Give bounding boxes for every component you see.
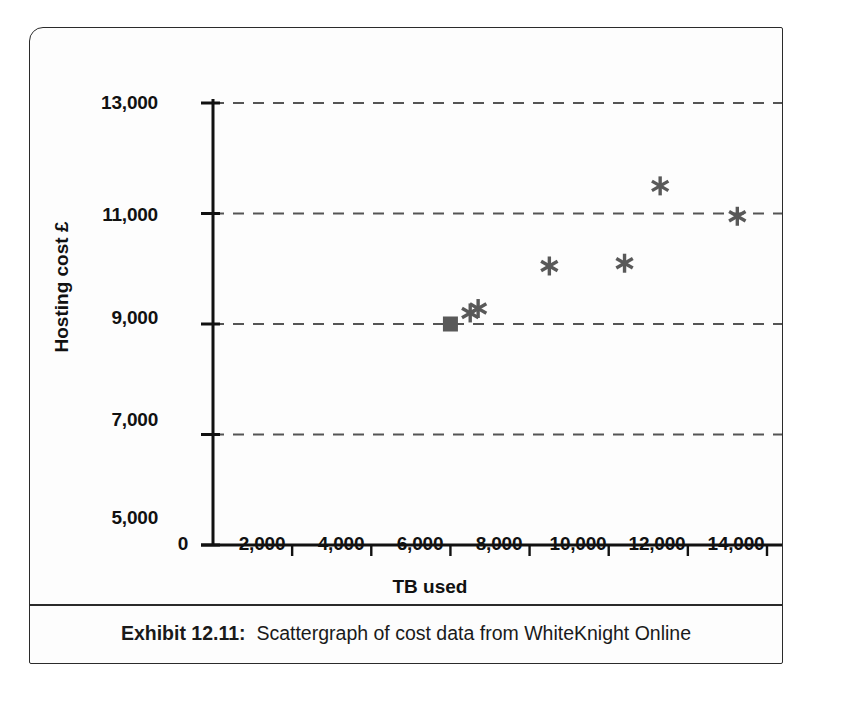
data-point-asterisk xyxy=(729,207,745,226)
exhibit-frame: 13,000 11,000 9,000 7,000 5,000 0 2,000 … xyxy=(29,27,783,664)
data-point-square xyxy=(443,317,458,332)
data-point-asterisk xyxy=(541,256,557,275)
gridlines xyxy=(213,103,782,435)
scatter-chart: 13,000 11,000 9,000 7,000 5,000 0 2,000 … xyxy=(30,28,784,596)
caption-spacer xyxy=(246,622,257,644)
caption-label: Exhibit 12.11: xyxy=(121,622,246,644)
data-point-asterisk xyxy=(652,176,668,195)
axis-ticks xyxy=(201,103,767,556)
data-point-asterisk xyxy=(616,254,632,273)
data-markers xyxy=(443,154,784,332)
axis-lines xyxy=(201,99,782,545)
caption-body: Scattergraph of cost data from WhiteKnig… xyxy=(256,622,691,644)
plot-canvas xyxy=(30,28,784,596)
caption-text: Exhibit 12.11: Scattergraph of cost data… xyxy=(121,622,691,645)
exhibit-caption: Exhibit 12.11: Scattergraph of cost data… xyxy=(30,604,782,663)
